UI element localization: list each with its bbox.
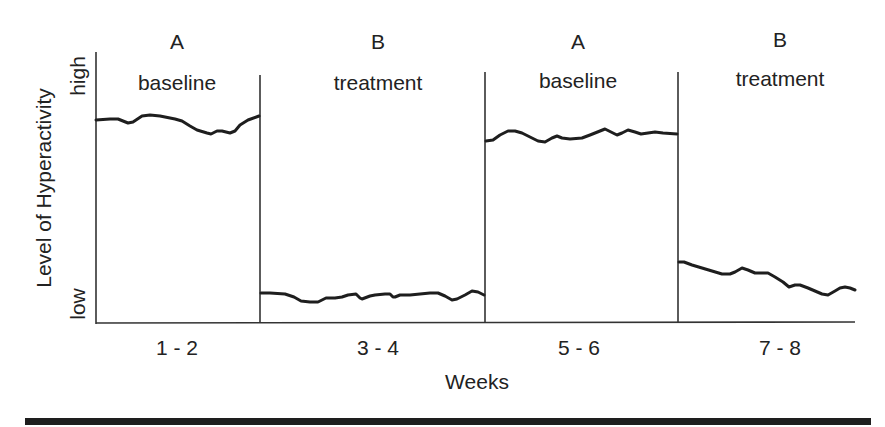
x-tick-3: 5 - 6 — [558, 336, 600, 360]
bottom-divider-rule — [25, 418, 871, 425]
x-tick-1: 1 - 2 — [156, 336, 198, 360]
data-line-phase-1 — [96, 115, 259, 134]
axes — [96, 52, 855, 324]
x-axis-title: Weeks — [445, 370, 509, 394]
data-line-phase-2 — [261, 291, 484, 302]
x-tick-4: 7 - 8 — [759, 336, 801, 360]
data-line-phase-4 — [679, 262, 855, 295]
plot-area — [0, 0, 885, 427]
x-axis-line — [96, 322, 855, 323]
data-line-phase-3 — [486, 129, 677, 142]
x-tick-2: 3 - 4 — [357, 336, 399, 360]
